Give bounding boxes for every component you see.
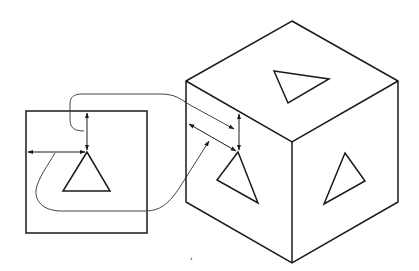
diagram-canvas: , [0,0,419,271]
diagram-svg: , [0,0,419,271]
stray-mark: , [190,251,193,261]
cube-slanted-dimension-arrow [189,124,236,151]
cube-right-face-triangle [324,153,365,204]
cube-top-face-triangle [274,71,329,103]
upper-leader-line [70,94,234,131]
cube-left-face-triangle [217,152,258,203]
isometric-cube [186,21,398,263]
panel-triangle [63,152,110,191]
flat-panel [26,111,147,233]
cube-top-edges [186,81,398,142]
